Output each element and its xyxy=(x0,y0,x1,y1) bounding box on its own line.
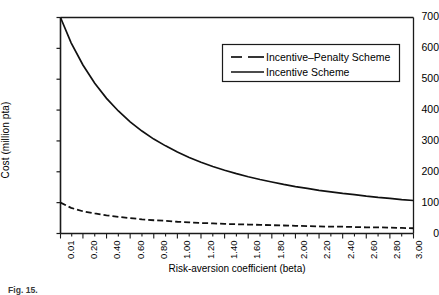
legend-label-incentive-scheme: Incentive Scheme xyxy=(266,66,350,78)
figure-caption: Fig. 15. xyxy=(8,285,38,295)
legend: Incentive–Penalty Scheme Incentive Schem… xyxy=(223,45,400,82)
series-line-incentive-penalty-scheme xyxy=(61,203,414,229)
legend-label-incentive-penalty-scheme: Incentive–Penalty Scheme xyxy=(266,51,390,63)
figure-caption-prefix: Fig. 15. xyxy=(8,285,38,295)
